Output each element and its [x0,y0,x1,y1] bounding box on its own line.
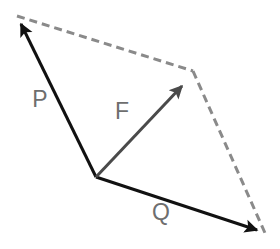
vector-diagram-canvas: P F Q [0,0,280,249]
vector-label-p: P [32,86,47,112]
vector-label-q: Q [152,199,170,225]
vector-diagram: P F Q [0,0,280,249]
diagram-background [0,0,280,249]
vector-label-f: F [115,98,129,124]
